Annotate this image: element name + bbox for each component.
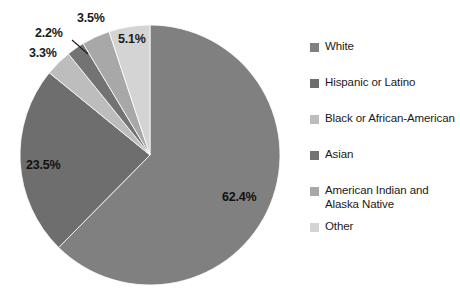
legend-item-label: Other (325, 220, 353, 234)
pie-slice-value-label: 5.1% (118, 32, 146, 46)
legend-swatch-icon (310, 223, 319, 232)
chart-legend: WhiteHispanic or LatinoBlack or African-… (310, 40, 460, 256)
legend-item[interactable]: American Indian and Alaska Native (310, 184, 460, 220)
legend-swatch-icon (310, 79, 319, 88)
pie-slice-group (20, 25, 280, 285)
pie-plot-area: 62.4%23.5%3.3%2.2%3.5%5.1% (0, 0, 300, 296)
legend-swatch-icon (310, 187, 319, 196)
pie-chart-figure: 62.4%23.5%3.3%2.2%3.5%5.1% WhiteHispanic… (0, 0, 460, 296)
legend-item[interactable]: Black or African-American (310, 112, 460, 148)
pie-slice-value-label: 62.4% (222, 190, 256, 204)
legend-swatch-icon (310, 115, 319, 124)
legend-item[interactable]: Hispanic or Latino (310, 76, 460, 112)
legend-swatch-icon (310, 151, 319, 160)
legend-item-label: Asian (325, 148, 353, 162)
legend-item[interactable]: White (310, 40, 460, 76)
pie-svg (0, 0, 300, 296)
pie-slice-value-label: 23.5% (26, 158, 60, 172)
legend-item[interactable]: Asian (310, 148, 460, 184)
pie-slice-value-label: 2.2% (35, 26, 63, 40)
legend-item-label: American Indian and Alaska Native (325, 184, 460, 211)
legend-item-label: Hispanic or Latino (325, 76, 415, 90)
pie-slice-value-label: 3.3% (29, 46, 57, 60)
legend-item-label: Black or African-American (325, 112, 455, 126)
legend-item-label: White (325, 40, 354, 54)
pie-slice-value-label: 3.5% (77, 11, 105, 25)
legend-swatch-icon (310, 43, 319, 52)
legend-item[interactable]: Other (310, 220, 460, 256)
